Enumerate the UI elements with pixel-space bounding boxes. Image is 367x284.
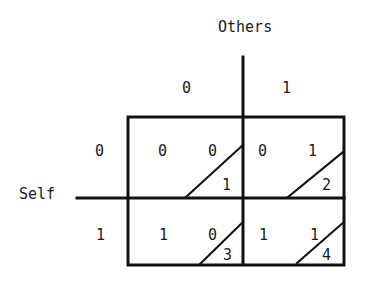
row-label-0: 0	[95, 144, 104, 159]
row-label-1: 1	[96, 228, 105, 243]
cell-1-right-value: 0	[208, 144, 217, 159]
cell-2-left-value: 0	[258, 144, 267, 159]
cell-2-right-value: 1	[308, 144, 317, 159]
cell-1-left-value: 0	[158, 144, 167, 159]
cell-3-right-value: 0	[208, 228, 217, 243]
self-title: Self	[19, 187, 55, 202]
cell-3-diagonal	[200, 223, 242, 264]
others-title: Others	[218, 20, 272, 35]
column-label-1: 1	[282, 81, 291, 96]
cell-2-index: 2	[322, 178, 331, 193]
column-label-0: 0	[182, 81, 191, 96]
cell-3-index: 3	[223, 248, 232, 263]
cell-4-right-value: 1	[310, 228, 319, 243]
cell-1-index: 1	[222, 178, 231, 193]
cell-4-diagonal	[297, 222, 344, 263]
cell-4-left-value: 1	[259, 228, 268, 243]
cell-4-index: 4	[322, 248, 331, 263]
cell-3-left-value: 1	[159, 228, 168, 243]
